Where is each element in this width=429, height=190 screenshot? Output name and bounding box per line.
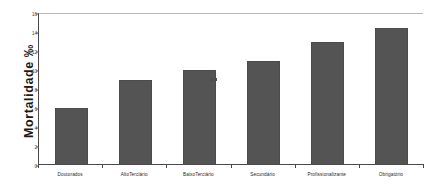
x-axis-category-label: Obrigatório	[379, 172, 403, 177]
bar[interactable]	[247, 61, 280, 166]
y-axis-tick-label: 10	[7, 69, 37, 74]
bar[interactable]	[375, 28, 408, 165]
y-axis-tick-label: 16	[7, 12, 37, 17]
x-axis-tick-mark	[102, 164, 103, 168]
x-axis-category-label: BaixoTerciário	[183, 172, 214, 177]
bar-chart-figure: Mortalidade ‰ 0246810121416 DoutoradosAl…	[0, 0, 429, 190]
x-axis-tick-mark	[166, 164, 167, 168]
x-axis-tick-mark	[38, 164, 39, 168]
x-axis-category-label: Profissionalizante	[307, 172, 346, 177]
x-axis-category-label: Doutorados	[57, 172, 82, 177]
bar[interactable]	[119, 80, 152, 166]
y-axis-tick-label: 14	[7, 31, 37, 36]
bar[interactable]	[311, 42, 344, 166]
x-axis-category-label: Secundário	[250, 172, 275, 177]
y-axis-tick-label: 2	[7, 145, 37, 150]
y-axis-tick-label: 6	[7, 107, 37, 112]
y-axis-tick-label: 4	[7, 126, 37, 131]
bar-slot	[232, 14, 296, 165]
y-axis-tick-label: 0	[7, 164, 37, 169]
x-axis-tick-mark	[295, 164, 296, 168]
x-axis-tick-mark	[231, 164, 232, 168]
bar-slot	[167, 14, 231, 165]
y-axis-tick-label: 12	[7, 50, 37, 55]
bar-slot	[360, 14, 424, 165]
bar[interactable]	[183, 70, 216, 165]
bar-slot	[39, 14, 103, 165]
x-axis-tick-mark	[423, 164, 424, 168]
bar-slot	[103, 14, 167, 165]
x-axis-tick-mark	[359, 164, 360, 168]
x-axis-category-label: AltoTerciário	[121, 172, 148, 177]
bar-slot	[296, 14, 360, 165]
stray-tick-mark-icon	[210, 78, 217, 81]
plot-area: 0246810121416	[38, 13, 423, 165]
bar[interactable]	[55, 108, 88, 165]
y-axis-tick-label: 8	[7, 88, 37, 93]
